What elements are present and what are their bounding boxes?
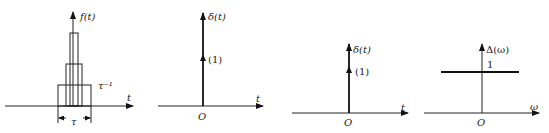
height-label: τ⁻¹ xyxy=(98,80,113,91)
x-label: t xyxy=(256,93,261,104)
panel-delta-2: δ(t) (1) t O xyxy=(292,44,408,128)
panel-rect-pulses: f(t) t τ⁻¹ τ xyxy=(5,11,133,127)
pulse-narrow xyxy=(70,33,78,106)
y-label: δ(t) xyxy=(208,11,226,22)
weight-arrowhead xyxy=(346,66,352,73)
panel-delta-1: δ(t) (1) t O xyxy=(158,11,263,122)
origin-label: O xyxy=(198,111,206,122)
pulse-wide xyxy=(58,85,91,106)
x-label: t xyxy=(401,102,406,113)
x-label: t xyxy=(127,92,132,103)
width-label: τ xyxy=(71,116,77,127)
panel-delta-spectrum: Δ(ω) 1 ω O xyxy=(424,44,539,128)
impulse-weight: (1) xyxy=(208,54,222,65)
x-label: ω xyxy=(530,101,538,112)
origin-label: O xyxy=(344,117,352,128)
impulse-weight: (1) xyxy=(355,66,369,77)
origin-label: O xyxy=(477,117,485,128)
signal-diagram: f(t) t τ⁻¹ τ δ(t) (1) t O δ(t) (1) t O Δ… xyxy=(0,0,549,133)
y-label: δ(t) xyxy=(353,44,371,55)
y-label: Δ(ω) xyxy=(486,44,509,55)
level-label: 1 xyxy=(487,59,493,70)
y-label: f(t) xyxy=(79,11,96,22)
weight-arrowhead xyxy=(200,54,206,61)
